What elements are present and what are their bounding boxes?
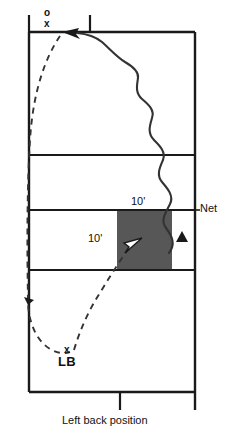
serve-origin-player-label: x [44, 19, 50, 29]
left-back-position-label: LB [58, 355, 76, 368]
net-label: Net [200, 203, 217, 214]
diagram-caption: Left back position [62, 415, 148, 426]
serve-origin-ball-label: o [44, 8, 50, 18]
distance-label-upper: 10' [131, 196, 145, 207]
court-bottom-ticks [120, 392, 195, 410]
court-svg [0, 0, 233, 438]
court-top-ticks [29, 15, 90, 32]
target-triangle-icon [176, 231, 188, 242]
distance-label-lower: 10' [88, 233, 102, 244]
volleyball-court-diagram: o x 10' 10' Net x LB Left back position [0, 0, 233, 438]
dashed-arrow-icon-descend [27, 36, 70, 353]
